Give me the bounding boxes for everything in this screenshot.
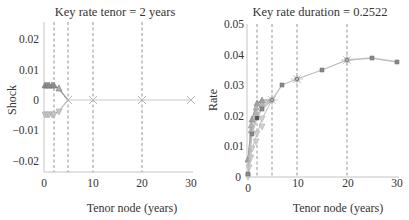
svg-text:10: 10 <box>87 177 99 189</box>
left-x-label: Tenor node (years) <box>87 201 177 215</box>
svg-text:0.02: 0.02 <box>19 33 39 45</box>
figure: Key rate tenor = 2 years 0.02 0.01 0 −0.… <box>0 0 409 220</box>
svg-text:0: 0 <box>33 94 39 106</box>
svg-text:0.02: 0.02 <box>224 110 244 122</box>
svg-text:−0.02: −0.02 <box>12 155 39 167</box>
right-y-ticks: 0.05 0.04 0.03 0.02 0.01 0 <box>224 18 244 183</box>
right-chart: Key rate duration = 0.2522 0.05 0.04 0.0… <box>206 5 403 215</box>
left-chart-title: Key rate tenor = 2 years <box>55 5 176 19</box>
left-zero-shock-series <box>64 96 195 104</box>
right-chart-title: Key rate duration = 0.2522 <box>252 5 387 19</box>
right-y-label: Rate <box>206 89 220 111</box>
svg-text:10: 10 <box>292 177 304 189</box>
right-x-ticks: 0 10 20 30 <box>245 177 403 194</box>
left-y-label: Shock <box>5 85 19 115</box>
left-x-ticks: 0 10 20 30 <box>41 177 197 189</box>
svg-text:0.01: 0.01 <box>224 140 244 152</box>
svg-text:30: 30 <box>185 177 197 189</box>
svg-text:20: 20 <box>136 177 148 189</box>
left-down-shock-series <box>42 100 68 118</box>
svg-text:30: 30 <box>391 177 403 189</box>
right-x-label: Tenor node (years) <box>293 201 383 215</box>
left-up-shock-series <box>42 82 68 100</box>
svg-text:0.01: 0.01 <box>19 64 39 76</box>
svg-text:0: 0 <box>41 177 47 189</box>
svg-text:−0.01: −0.01 <box>12 124 39 136</box>
svg-text:0: 0 <box>235 171 241 183</box>
svg-text:0.05: 0.05 <box>224 18 244 30</box>
svg-text:0.03: 0.03 <box>224 79 244 91</box>
left-chart: Key rate tenor = 2 years 0.02 0.01 0 −0.… <box>5 5 197 215</box>
svg-text:20: 20 <box>342 177 354 189</box>
svg-text:0: 0 <box>245 182 251 194</box>
left-key-rate-lines <box>54 22 142 172</box>
svg-text:0.04: 0.04 <box>224 49 244 61</box>
right-base-curve-series <box>246 54 399 176</box>
